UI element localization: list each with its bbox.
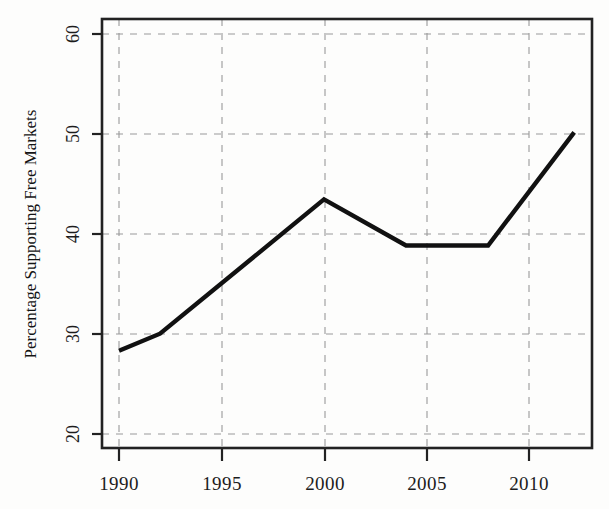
y-axis-tick-labels: 60 50 40 30 20 [63, 25, 83, 443]
y-tick-label-40: 40 [63, 225, 83, 243]
x-tick-label-1995: 1995 [202, 473, 242, 494]
horizontal-gridlines [102, 34, 592, 434]
x-tick-label-2005: 2005 [407, 473, 447, 494]
y-tick-label-20: 20 [63, 425, 83, 443]
x-axis-tick-labels: 1990 1995 2000 2005 2010 [99, 473, 549, 494]
x-tick-label-1990: 1990 [99, 473, 139, 494]
y-tick-label-30: 30 [63, 325, 83, 343]
chart-figure: 60 50 40 30 20 1990 1995 2000 2005 2010 … [0, 0, 609, 509]
y-axis-title: Percentage Supporting Free Markets [21, 110, 40, 359]
line-chart: 60 50 40 30 20 1990 1995 2000 2005 2010 … [0, 0, 609, 509]
y-axis-ticks [92, 34, 102, 434]
y-tick-label-50: 50 [63, 125, 83, 143]
y-tick-label-60: 60 [63, 25, 83, 43]
x-tick-label-2010: 2010 [509, 473, 549, 494]
x-axis-ticks [119, 448, 529, 461]
data-series-line [119, 132, 574, 350]
x-tick-label-2000: 2000 [305, 473, 345, 494]
